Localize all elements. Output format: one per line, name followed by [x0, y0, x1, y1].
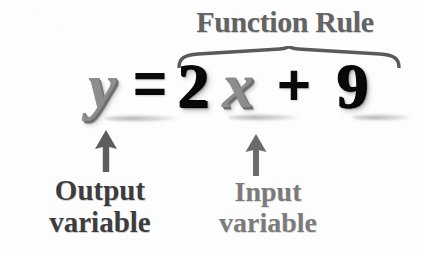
equation-output-variable-y: y: [88, 55, 116, 118]
label-output-variable-line2: variable: [14, 206, 186, 238]
page-title: Function Rule: [160, 5, 410, 39]
label-output-variable-line1: Output: [14, 174, 186, 206]
function-rule-figure: Function Rule y = 2 x + 9 Output variabl…: [0, 0, 424, 254]
up-arrow-icon-output: [93, 130, 119, 172]
equation-coefficient-2: 2: [177, 55, 209, 118]
equation-plus-sign: +: [277, 56, 311, 114]
equation: y = 2 x + 9: [0, 58, 424, 120]
label-output-variable: Output variable: [14, 174, 186, 239]
equation-constant-9: 9: [336, 55, 368, 118]
up-arrow-icon-input: [243, 134, 269, 176]
equation-equals-sign: =: [133, 54, 167, 112]
equation-input-variable-x: x: [222, 55, 254, 118]
label-input-variable-line1: Input: [186, 176, 350, 207]
label-input-variable: Input variable: [186, 176, 350, 239]
label-input-variable-line2: variable: [186, 207, 350, 238]
